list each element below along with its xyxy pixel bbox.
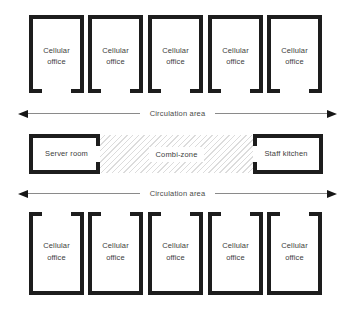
room-label: Cellular office (98, 240, 134, 263)
cellular-office-room: Cellular office (267, 212, 322, 295)
room-label: Cellular office (277, 240, 313, 263)
room-label: Server room (45, 148, 88, 159)
combi-zone: Combi-zone (100, 135, 253, 173)
circulation-arrow-bottom: Circulation area (18, 189, 337, 198)
arrow-right-icon (327, 190, 337, 198)
room-label: Cellular office (98, 45, 134, 68)
room-label: Cellular office (39, 240, 75, 263)
floor-plan-diagram: Cellular office Cellular office Cellular… (0, 0, 352, 310)
arrow-left-icon (18, 190, 28, 198)
room-label: Cellular office (218, 45, 254, 68)
arrow-line (215, 193, 327, 194)
arrow-line (215, 113, 327, 114)
arrow-right-icon (327, 110, 337, 118)
cellular-office-room: Cellular office (88, 15, 143, 93)
room-label: Cellular office (277, 45, 313, 68)
room-label: Cellular office (39, 45, 75, 68)
room-label: Staff kitchen (264, 148, 307, 159)
server-room: Server room (29, 134, 100, 174)
arrow-line (28, 193, 140, 194)
cellular-office-room: Cellular office (208, 212, 263, 295)
cellular-office-room: Cellular office (148, 212, 203, 295)
circulation-arrow-top: Circulation area (18, 109, 337, 118)
cellular-office-room: Cellular office (208, 15, 263, 93)
room-label: Cellular office (218, 240, 254, 263)
cellular-office-room: Cellular office (88, 212, 143, 295)
cellular-office-room: Cellular office (267, 15, 322, 93)
arrow-line (28, 113, 140, 114)
cellular-office-room: Cellular office (29, 212, 84, 295)
cellular-office-room: Cellular office (148, 15, 203, 93)
cellular-office-room: Cellular office (29, 15, 84, 93)
combi-zone-label: Combi-zone (149, 147, 205, 162)
circulation-label: Circulation area (150, 189, 206, 198)
room-label: Cellular office (158, 45, 194, 68)
circulation-label: Circulation area (150, 109, 206, 118)
staff-kitchen-room: Staff kitchen (253, 134, 323, 174)
arrow-left-icon (18, 110, 28, 118)
room-label: Cellular office (158, 240, 194, 263)
